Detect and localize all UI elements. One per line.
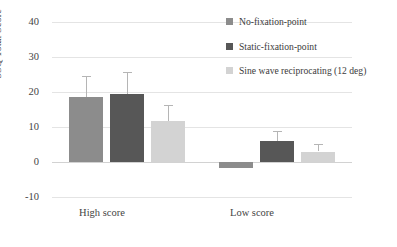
bar-low-no-fixation-point	[219, 162, 253, 168]
bar-high-static-fixation-point	[110, 94, 144, 162]
errorbar-low-sine-wave-reciprocating	[318, 144, 319, 151]
legend-item-static-fixation-point: Static-fixation-point	[226, 41, 396, 53]
y-tick-30: 30	[0, 52, 39, 63]
legend-swatch-icon	[226, 67, 233, 74]
errorbar-low-static-fixation-point	[277, 131, 278, 142]
legend-label: Static-fixation-point	[239, 41, 317, 52]
x-tick-high-score: High score	[57, 207, 147, 218]
bar-high-sine-wave-reciprocating	[151, 121, 185, 162]
legend: No-fixation-point Static-fixation-point …	[226, 16, 396, 90]
errorbar-high-sine-wave-reciprocating	[168, 105, 169, 121]
errorcap-low-sine-wave-reciprocating	[314, 144, 323, 145]
y-tick-0: 0	[0, 157, 39, 168]
y-tick-10: 10	[0, 122, 39, 133]
errorcap-low-static-fixation-point	[273, 131, 282, 132]
zero-baseline	[52, 162, 352, 163]
legend-item-sine-wave-reciprocating: Sine wave reciprocating (12 deg)	[226, 65, 396, 77]
errorcap-high-sine-wave-reciprocating	[164, 105, 173, 106]
bar-low-static-fixation-point	[260, 141, 294, 162]
y-tick-20: 20	[0, 87, 39, 98]
y-tick-neg10: -10	[0, 192, 39, 203]
ssq-total-score-bar-chart: SSQ Total Score 40 30 20 10 0 -10 High s…	[0, 0, 397, 247]
gridline-neg10	[52, 197, 352, 198]
legend-label: No-fixation-point	[239, 16, 307, 27]
errorcap-high-static-fixation-point	[123, 72, 132, 73]
bar-high-no-fixation-point	[69, 97, 103, 163]
legend-swatch-icon	[226, 43, 233, 50]
errorcap-high-no-fixation-point	[82, 76, 91, 77]
legend-item-no-fixation-point: No-fixation-point	[226, 16, 396, 28]
y-tick-40: 40	[0, 17, 39, 28]
errorbar-high-no-fixation-point	[86, 76, 87, 97]
legend-label: Sine wave reciprocating (12 deg)	[239, 65, 366, 76]
errorbar-high-static-fixation-point	[127, 72, 128, 94]
x-tick-low-score: Low score	[207, 207, 297, 218]
legend-swatch-icon	[226, 18, 233, 25]
gridline-20	[52, 92, 352, 93]
bar-low-sine-wave-reciprocating	[301, 152, 335, 163]
